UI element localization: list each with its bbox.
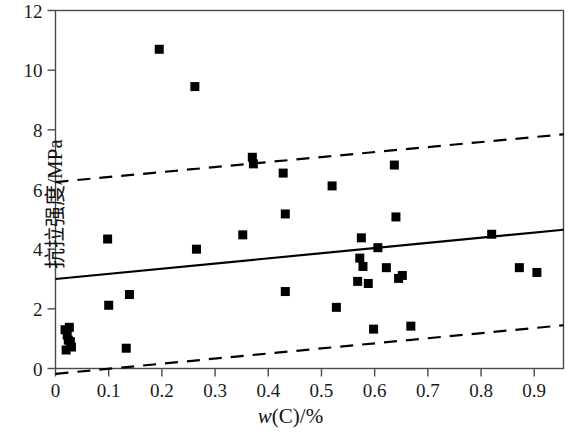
upper-confidence-band bbox=[56, 134, 564, 182]
data-point bbox=[382, 263, 391, 272]
data-point bbox=[406, 322, 415, 331]
x-axis-title: w(C)/% bbox=[0, 404, 581, 429]
data-point bbox=[515, 263, 524, 272]
data-points bbox=[61, 45, 542, 355]
chart-figure: 00.10.20.30.40.50.60.70.80.9024681012 抗拉… bbox=[0, 0, 581, 439]
data-point bbox=[190, 82, 199, 91]
data-point bbox=[532, 268, 541, 277]
data-point bbox=[122, 344, 131, 353]
data-point bbox=[192, 245, 201, 254]
data-point bbox=[355, 254, 364, 263]
x-tick-label: 0.4 bbox=[256, 381, 280, 400]
data-point bbox=[281, 209, 290, 218]
data-point bbox=[328, 181, 337, 190]
data-point bbox=[364, 279, 373, 288]
trend-lines bbox=[56, 134, 564, 374]
x-tick-label: 0.9 bbox=[522, 381, 546, 400]
data-point bbox=[332, 303, 341, 312]
data-point bbox=[249, 159, 258, 168]
x-tick-label: 0.6 bbox=[363, 381, 387, 400]
data-point bbox=[391, 212, 400, 221]
data-point bbox=[398, 271, 407, 280]
x-tick-label: 0.1 bbox=[97, 381, 121, 400]
x-tick-label: 0.7 bbox=[416, 381, 440, 400]
y-tick-label: 4 bbox=[0, 240, 43, 259]
data-point bbox=[125, 290, 134, 299]
y-tick-label: 12 bbox=[0, 1, 43, 20]
y-tick-label: 6 bbox=[0, 180, 43, 199]
data-point bbox=[65, 323, 74, 332]
data-point bbox=[353, 277, 362, 286]
data-point bbox=[390, 161, 399, 170]
y-tick-label: 8 bbox=[0, 120, 43, 139]
data-point bbox=[103, 235, 112, 244]
y-axis-title: 抗拉强度/MPa bbox=[38, 99, 68, 309]
lower-confidence-band bbox=[56, 325, 564, 374]
plot-frame bbox=[56, 11, 564, 369]
data-point bbox=[369, 325, 378, 334]
data-point bbox=[155, 45, 164, 54]
x-tick-label: 0 bbox=[51, 381, 61, 400]
axis-ticks bbox=[48, 11, 535, 377]
data-point bbox=[358, 262, 367, 271]
y-tick-label: 0 bbox=[0, 359, 43, 378]
scatter-plot-canvas bbox=[0, 0, 581, 439]
data-point bbox=[238, 230, 247, 239]
x-axis-title-rest: (C)/% bbox=[272, 404, 323, 428]
y-tick-label: 2 bbox=[0, 299, 43, 318]
data-point bbox=[357, 233, 366, 242]
x-tick-label: 0.8 bbox=[469, 381, 493, 400]
data-point bbox=[279, 169, 288, 178]
data-point bbox=[104, 301, 113, 310]
data-point bbox=[487, 230, 496, 239]
data-point bbox=[67, 343, 76, 352]
data-point bbox=[373, 243, 382, 252]
x-tick-label: 0.5 bbox=[310, 381, 334, 400]
x-axis-title-variable: w bbox=[258, 404, 272, 428]
data-point bbox=[281, 287, 290, 296]
y-tick-label: 10 bbox=[0, 61, 43, 80]
x-tick-label: 0.3 bbox=[203, 381, 227, 400]
x-tick-label: 0.2 bbox=[150, 381, 174, 400]
